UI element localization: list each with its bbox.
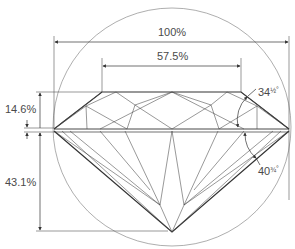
- crown-angle-label: 34½°: [258, 86, 279, 98]
- extension-lines: [24, 36, 289, 231]
- pavilion-angle-arc: [245, 133, 256, 158]
- pavilion-depth-label: 43.1%: [5, 177, 36, 188]
- dimension-arrows: [27, 42, 288, 230]
- total-width-label: 100%: [158, 27, 186, 38]
- pavilion-angle-value: 40: [258, 165, 270, 177]
- diamond-proportions-diagram: [0, 0, 295, 249]
- pavilion-facets: [54, 131, 289, 232]
- crown-facets: [54, 92, 289, 129]
- outline-circle: [53, 8, 291, 246]
- crown-angle-value: 34: [258, 86, 270, 98]
- crown-height-label: 14.6%: [5, 104, 36, 115]
- crown-angle-arc: [237, 97, 247, 127]
- table-width-label: 57.5%: [157, 51, 188, 62]
- crown-angle-unit: °: [276, 86, 279, 93]
- pavilion-angle-label: 40¾°: [258, 165, 279, 177]
- pavilion-angle-unit: °: [276, 165, 279, 172]
- diamond-outline: [54, 92, 289, 232]
